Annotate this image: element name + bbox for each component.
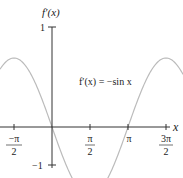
chart: f′(x) 1 −1 x f′(x) = −sin x −π 2 π 2 π 3… <box>0 0 183 178</box>
x-tick-neg-pi-half-num: −π <box>9 133 20 144</box>
x-tick-pi-half-den: 2 <box>88 146 93 157</box>
plot-svg: f′(x) 1 −1 x f′(x) = −sin x −π 2 π 2 π 3… <box>0 0 183 178</box>
x-axis-label: x <box>172 120 179 134</box>
y-axis-label: f′(x) <box>42 6 60 19</box>
x-tick-pi: π <box>126 133 131 144</box>
x-tick-3pi-half-den: 2 <box>164 146 169 157</box>
curve-annotation: f′(x) = −sin x <box>79 76 132 88</box>
x-tick-neg-pi-half-den: 2 <box>12 146 17 157</box>
x-tick-3pi-half-num: 3π <box>161 133 171 144</box>
x-tick-pi-half-num: π <box>87 133 92 144</box>
y-tick-neg1: −1 <box>32 160 43 171</box>
y-tick-1: 1 <box>40 22 45 33</box>
